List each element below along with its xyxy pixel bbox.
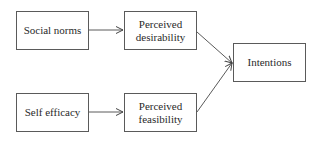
- arrow-feasibility-to-intentions: [197, 63, 232, 112]
- node-label-line1: Perceived: [139, 100, 182, 113]
- node-social-norms: Social norms: [16, 11, 89, 50]
- node-perceived-feasibility: Perceived feasibility: [124, 93, 197, 132]
- node-label-line1: Perceived: [139, 18, 182, 31]
- node-self-efficacy: Self efficacy: [16, 93, 89, 132]
- node-perceived-desirability: Perceived desirability: [124, 11, 197, 50]
- node-label-line2: desirability: [136, 31, 186, 44]
- node-intentions: Intentions: [233, 43, 306, 82]
- node-label: Social norms: [24, 24, 82, 37]
- node-label-line2: feasibility: [139, 113, 183, 126]
- node-label: Self efficacy: [25, 106, 81, 119]
- node-label: Intentions: [248, 56, 292, 69]
- arrow-desirability-to-intentions: [197, 32, 232, 63]
